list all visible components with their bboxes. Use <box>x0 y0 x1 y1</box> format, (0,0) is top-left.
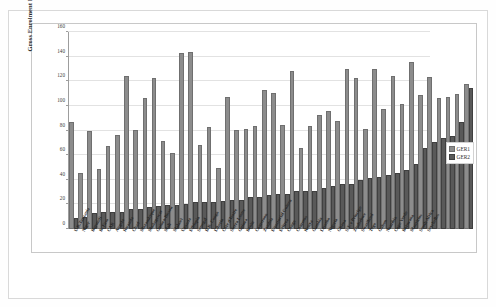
x-axis-tick-label: Liberia <box>213 230 217 233</box>
x-axis-tick-label: Benin <box>245 230 249 233</box>
x-axis-tick-label: Lesotho <box>319 230 323 233</box>
x-axis-tick-label: S.T. e Principe <box>344 230 348 233</box>
bar-group <box>188 32 197 229</box>
y-axis-tick-label: 20 <box>60 195 65 201</box>
y-axis-tick-label: 160 <box>57 23 65 29</box>
x-axis-tick-label: Swaziland <box>360 230 364 233</box>
x-axis-tick-label: Angola <box>114 230 118 233</box>
x-axis-tick-label: Zimbabwe <box>352 230 356 233</box>
x-axis-tick-label: Eritrea <box>278 230 282 233</box>
bar-group <box>97 32 106 229</box>
x-axis-tick-label: Guinea-Bissau <box>155 230 159 233</box>
bar-group <box>299 32 308 229</box>
y-axis-tick-label: 80 <box>60 122 65 128</box>
bar-group <box>345 32 354 229</box>
bar-group <box>124 32 133 229</box>
x-axis-tick-label: Malawi <box>172 230 176 233</box>
bar-group <box>326 32 335 229</box>
bar-group <box>363 32 372 229</box>
plot-region: 020406080100120140160 <box>68 32 430 229</box>
bar-ger1[interactable] <box>124 76 129 229</box>
bar-group <box>143 32 152 229</box>
bar-group <box>308 32 317 229</box>
bar-group <box>418 32 427 229</box>
x-axis-tick-label: B. Faso <box>98 230 102 233</box>
x-axis-tick-label: Cape Verde <box>393 230 397 233</box>
x-axis-tick-label: Congo <box>286 230 290 233</box>
bar-group <box>161 32 170 229</box>
bar-group <box>335 32 344 229</box>
legend-item[interactable]: GER2 <box>449 153 470 161</box>
x-axis-tick-label: Mozambique <box>139 230 143 233</box>
x-axis-tick-label: Guinea <box>237 230 241 233</box>
bar-group <box>381 32 390 229</box>
bar-group <box>87 32 96 229</box>
x-axis-tick-label: Gambia <box>311 230 315 233</box>
x-axis-tick-label: Nigeria <box>327 230 331 233</box>
x-axis-tick-label: Senegal <box>196 230 200 233</box>
y-axis-title: Gross Enrolment R <box>26 0 33 84</box>
x-axis-tick-label: U.R.Tanzania <box>73 230 77 233</box>
bar-group <box>455 32 464 229</box>
bar-group <box>106 32 115 229</box>
bar-group <box>427 32 436 229</box>
bar-group <box>234 32 243 229</box>
x-axis-tick-label: Madagascar <box>147 230 151 233</box>
x-axis-tick-label: Kenya <box>303 230 307 233</box>
bar-group <box>198 32 207 229</box>
bar-group <box>216 32 225 229</box>
bar-group <box>409 32 418 229</box>
bar-group <box>464 32 473 229</box>
bar-group <box>207 32 216 229</box>
legend-label: GER2 <box>457 154 470 160</box>
bar-group <box>437 32 446 229</box>
x-axis-tick-label: Zambia <box>262 230 266 233</box>
x-axis-tick-label: Togo <box>368 230 372 233</box>
figure-frame: Gross Enrolment R 020406080100120140160 … <box>8 10 488 299</box>
x-axis-tick-label: Comoros <box>295 230 299 233</box>
y-axis-tick-label: 40 <box>60 171 65 177</box>
bar-group <box>400 32 409 229</box>
x-axis-tick-label: Niger <box>81 230 85 233</box>
x-axis-tick-label: D.R. Congo <box>204 230 208 233</box>
chart-legend: GER1GER2 <box>446 142 474 164</box>
x-axis-tick-label: Cameroon <box>254 230 258 233</box>
legend-swatch <box>449 154 455 160</box>
bar-group <box>391 32 400 229</box>
bar-group <box>69 32 78 229</box>
x-axis-tick-label: CAR <box>106 230 110 233</box>
x-axis-tick-label: Rwanda <box>122 230 126 233</box>
bar-group <box>244 32 253 229</box>
y-axis-tick-label: 140 <box>57 48 65 54</box>
chart-plot-area: Gross Enrolment R 020406080100120140160 … <box>31 23 477 253</box>
bar-group <box>179 32 188 229</box>
x-axis-tick-label: Ghana <box>336 230 340 233</box>
bar-group <box>262 32 271 229</box>
x-axis-tick-label: Burundi <box>90 230 94 233</box>
bar-group <box>372 32 381 229</box>
gridlines-and-bars: 020406080100120140160 <box>68 32 430 229</box>
bar-group <box>115 32 124 229</box>
bar-group <box>170 32 179 229</box>
x-axis-tick-label: Mauritius <box>409 230 413 233</box>
bar-ger1[interactable] <box>69 122 74 229</box>
bar-group <box>152 32 161 229</box>
bar-group <box>225 32 234 229</box>
x-axis-tick-label: South Africa <box>418 230 422 233</box>
legend-item[interactable]: GER1 <box>449 145 470 153</box>
x-axis-tick-label: Sierra Leone <box>229 230 233 233</box>
bar-group <box>354 32 363 229</box>
bar-group <box>317 32 326 229</box>
y-axis-tick-label: 60 <box>60 146 65 152</box>
x-axis-tick-label: Equatorial Guinea <box>270 230 274 233</box>
x-axis-tick-label: Botswana <box>401 230 405 233</box>
legend-swatch <box>449 146 455 152</box>
chart-page: Gross Enrolment R 020406080100120140160 … <box>0 0 496 307</box>
y-axis-tick-label: 120 <box>57 72 65 78</box>
bar-group <box>446 32 455 229</box>
x-axis-tick-label: Seychelles <box>426 230 430 233</box>
x-axis-tick-label: Uganda <box>180 230 184 233</box>
x-axis-tick-label: Côte d'Ivoire <box>221 230 225 233</box>
x-axis-tick-label: Namibia <box>385 230 389 233</box>
y-axis-tick-label: 0 <box>62 220 65 226</box>
